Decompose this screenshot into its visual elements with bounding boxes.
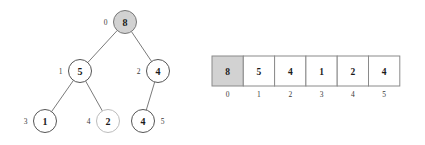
array-group: 805142132445 [212,56,400,99]
tree-node-value-5: 4 [141,116,146,127]
tree-edge-0-2 [131,32,151,62]
array-cell-value-2: 4 [288,67,293,77]
tree-node-value-4: 2 [106,116,111,127]
array-cell-value-5: 4 [382,67,387,77]
array-cell-value-3: 1 [319,67,324,77]
tree-node-index-1: 1 [59,67,63,76]
array-cell-index-0: 0 [226,90,230,99]
tree-node-value-3: 1 [43,116,48,127]
tree-node-index-5: 5 [161,117,165,126]
array-cell-value-4: 2 [350,67,355,77]
array-cell-index-4: 4 [351,90,355,99]
tree-edge-0-1 [88,30,117,62]
array-cell-index-3: 3 [320,90,324,99]
tree-edge-2-5 [146,82,154,110]
tree-node-index-0: 0 [104,18,108,27]
tree-nodes-group: 805142132445 [24,11,170,133]
array-cell-index-1: 1 [257,90,261,99]
array-cell-index-2: 2 [288,90,292,99]
tree-node-index-2: 2 [137,67,141,76]
tree-node-index-3: 3 [24,117,28,126]
tree-node-index-4: 4 [87,117,91,126]
tree-edge-1-3 [52,80,74,111]
tree-node-value-2: 4 [156,66,161,77]
array-cell-value-0: 8 [225,67,230,77]
tree-edge-1-4 [86,81,103,111]
array-cell-value-1: 5 [257,67,262,77]
heap-diagram-svg: 805142132445 805142132445 [0,0,425,145]
tree-node-value-0: 8 [123,17,128,28]
heap-figure: 805142132445 805142132445 [0,0,425,145]
array-cell-index-5: 5 [382,90,386,99]
tree-node-value-1: 5 [78,66,83,77]
